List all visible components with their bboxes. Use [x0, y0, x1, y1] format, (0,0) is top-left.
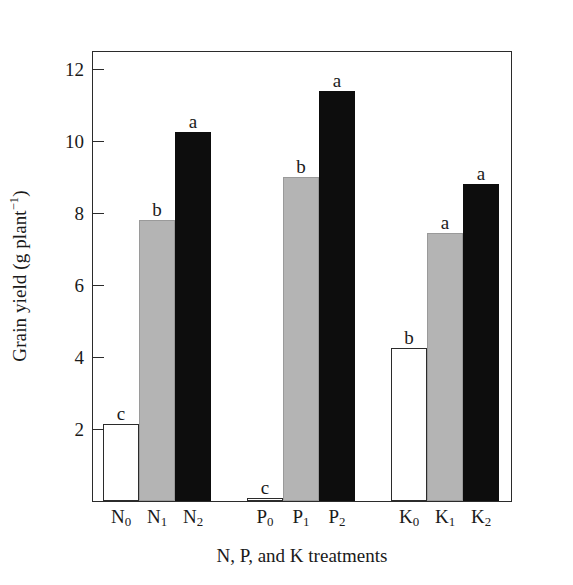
bar-n0: c — [103, 424, 139, 501]
x-tick-subscript: 0 — [125, 514, 131, 529]
bar-significance-letter: a — [189, 112, 197, 131]
y-axis-tick-label: 6 — [75, 275, 85, 297]
bar-p1: b — [283, 177, 319, 501]
y-axis-tick: 10 — [93, 141, 104, 142]
x-tick-subscript: 1 — [161, 514, 167, 529]
bar-k1: a — [427, 233, 463, 501]
y-axis-title: Grain yield (g plant−1) — [0, 51, 40, 501]
bar-significance-letter: b — [152, 200, 162, 219]
y-axis-tick-label: 4 — [75, 347, 85, 369]
chart-figure: Grain yield (g plant−1) 24681012 cbacbab… — [0, 0, 573, 585]
x-tick-subscript: 1 — [303, 514, 309, 529]
x-tick-subscript: 2 — [197, 514, 203, 529]
x-tick-subscript: 2 — [485, 514, 491, 529]
x-axis-tick-label-k0: K0 — [399, 507, 419, 528]
x-axis-tick-label-p1: P1 — [292, 507, 309, 528]
x-axis-tick-label-k1: K1 — [435, 507, 455, 528]
x-tick-base: P — [256, 506, 267, 527]
bar-significance-letter: c — [261, 478, 269, 497]
bar-significance-letter: a — [477, 164, 485, 183]
y-axis-tick: 6 — [93, 285, 104, 286]
y-axis-tick: 8 — [93, 213, 104, 214]
plot-area: 24681012 cbacbabaa N0N1N2P0P1P2K0K1K2 — [92, 51, 512, 502]
bar-k2: a — [463, 184, 499, 501]
y-axis-tick-label: 8 — [75, 203, 85, 225]
bar-n2: a — [175, 132, 211, 501]
bar-significance-letter: b — [296, 157, 306, 176]
bar-significance-letter: a — [441, 213, 449, 232]
y-axis-title-exponent: −1 — [8, 197, 22, 211]
bar-k0: b — [391, 348, 427, 501]
bar-significance-letter: b — [404, 328, 414, 347]
bar-n1: b — [139, 220, 175, 501]
x-tick-base: P — [328, 506, 339, 527]
x-tick-base: N — [183, 506, 197, 527]
x-tick-base: N — [111, 506, 125, 527]
x-axis-tick-label-n2: N2 — [183, 507, 203, 528]
bar-significance-letter: a — [333, 71, 341, 90]
x-tick-base: K — [399, 506, 413, 527]
x-tick-base: K — [471, 506, 485, 527]
y-axis-tick: 4 — [93, 357, 104, 358]
y-axis-tick-label: 2 — [75, 419, 85, 441]
x-axis-tick-label-n1: N1 — [147, 507, 167, 528]
x-tick-subscript: 1 — [449, 514, 455, 529]
y-axis-tick-label: 12 — [65, 59, 84, 81]
y-axis-tick: 12 — [93, 69, 104, 70]
x-axis-tick-label-p0: P0 — [256, 507, 273, 528]
y-axis-title-close: ) — [9, 190, 30, 196]
x-axis-tick-label-p2: P2 — [328, 507, 345, 528]
x-axis-tick-label-n0: N0 — [111, 507, 131, 528]
x-tick-subscript: 2 — [339, 514, 345, 529]
bar-p0: c — [247, 498, 283, 501]
x-axis-title: N, P, and K treatments — [92, 545, 512, 567]
bar-p2: a — [319, 91, 355, 501]
y-axis-tick-label: 10 — [65, 131, 84, 153]
x-tick-subscript: 0 — [413, 514, 419, 529]
x-tick-base: N — [147, 506, 161, 527]
x-tick-base: K — [435, 506, 449, 527]
bar-significance-letter: c — [117, 404, 125, 423]
y-axis-title-text: Grain yield (g plant−1) — [9, 190, 31, 361]
x-tick-subscript: 0 — [267, 514, 273, 529]
y-axis-title-main: Grain yield (g plant — [9, 210, 30, 361]
x-axis-tick-label-k2: K2 — [471, 507, 491, 528]
x-tick-base: P — [292, 506, 303, 527]
